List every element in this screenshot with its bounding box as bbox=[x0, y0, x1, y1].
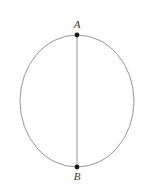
point-marker-b bbox=[75, 165, 80, 170]
point-marker-a bbox=[75, 33, 80, 38]
geometry-figure: A B bbox=[0, 0, 155, 195]
point-label-a: A bbox=[67, 19, 87, 30]
point-label-b: B bbox=[67, 171, 87, 182]
